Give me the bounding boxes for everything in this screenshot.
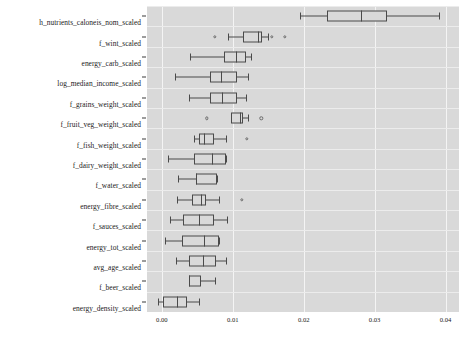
cap-high bbox=[219, 237, 220, 244]
cap-high bbox=[248, 115, 249, 122]
x-tick-label: 0.01 bbox=[227, 316, 239, 323]
box bbox=[196, 174, 217, 185]
y-tick-label: f_dairy_weight_scaled bbox=[0, 161, 141, 170]
median-line bbox=[236, 52, 237, 63]
whisker-high bbox=[201, 281, 215, 282]
box bbox=[192, 194, 205, 205]
box bbox=[243, 31, 262, 42]
y-gridline bbox=[147, 210, 459, 211]
x-axis-labels: 0.000.010.020.030.04 bbox=[147, 314, 459, 330]
cap-low bbox=[165, 237, 166, 244]
whisker-high bbox=[216, 261, 226, 262]
whisker-high bbox=[187, 301, 199, 302]
cap-high bbox=[226, 258, 227, 265]
y-axis-labels: h_nutrients_caloneis_nom_scaledf_wint_sc… bbox=[0, 6, 141, 312]
median-line bbox=[258, 31, 259, 42]
y-tick-label: log_median_income_scaled bbox=[0, 79, 141, 88]
median-line bbox=[199, 215, 200, 226]
plot-area bbox=[147, 6, 459, 312]
y-tick-mark bbox=[142, 77, 146, 78]
median-line bbox=[222, 92, 223, 103]
cap-low bbox=[177, 196, 178, 203]
whisker-high bbox=[214, 220, 227, 221]
y-tick-mark bbox=[142, 281, 146, 282]
y-gridline bbox=[147, 26, 459, 27]
y-gridline bbox=[147, 88, 459, 89]
y-gridline bbox=[147, 169, 459, 170]
y-tick-mark bbox=[142, 36, 146, 37]
y-gridline bbox=[147, 108, 459, 109]
y-tick-label: f_water_scaled bbox=[0, 181, 141, 190]
outlier-point bbox=[283, 35, 286, 38]
y-tick-label: energy_density_scaled bbox=[0, 303, 141, 312]
y-tick-label: f_sauces_scaled bbox=[0, 222, 141, 231]
outlier-point bbox=[205, 116, 208, 119]
whisker-low bbox=[178, 179, 196, 180]
median-line bbox=[189, 276, 190, 287]
cap-high bbox=[226, 135, 227, 142]
median-line bbox=[177, 296, 178, 307]
y-tick-mark bbox=[142, 301, 146, 302]
y-tick-label: f_fruit_veg_weight_scaled bbox=[0, 120, 141, 129]
y-tick-mark bbox=[142, 261, 146, 262]
y-tick-label: avg_age_scaled bbox=[0, 263, 141, 272]
x-tick-label: 0.03 bbox=[369, 316, 381, 323]
whisker-low bbox=[170, 220, 183, 221]
cap-high bbox=[227, 217, 228, 224]
box bbox=[189, 276, 201, 287]
y-tick-mark bbox=[142, 159, 146, 160]
cap-high bbox=[217, 176, 218, 183]
y-tick-label: energy_tot_scaled bbox=[0, 242, 141, 251]
box bbox=[231, 113, 242, 124]
x-gridline bbox=[375, 6, 376, 312]
x-tick-label: 0.00 bbox=[156, 316, 168, 323]
y-gridline bbox=[147, 292, 459, 293]
box bbox=[199, 133, 214, 144]
cap-low bbox=[176, 258, 177, 265]
y-tick-label: energy_fibre_scaled bbox=[0, 201, 141, 210]
y-gridline bbox=[147, 271, 459, 272]
whisker-low bbox=[189, 97, 210, 98]
whisker-low bbox=[177, 199, 193, 200]
cap-low bbox=[194, 135, 195, 142]
box bbox=[327, 11, 387, 22]
outlier-point bbox=[240, 198, 243, 201]
y-gridline bbox=[147, 128, 459, 129]
median-line bbox=[361, 11, 362, 22]
cap-high bbox=[251, 54, 252, 61]
median-line bbox=[204, 133, 205, 144]
whisker-low bbox=[175, 77, 210, 78]
y-gridline bbox=[147, 67, 459, 68]
whisker-high bbox=[206, 199, 219, 200]
box bbox=[210, 92, 237, 103]
y-tick-label: f_wint_scaled bbox=[0, 38, 141, 47]
cap-low bbox=[190, 54, 191, 61]
y-tick-mark bbox=[142, 118, 146, 119]
whisker-low bbox=[176, 261, 189, 262]
outlier-point bbox=[259, 116, 262, 119]
y-tick-mark bbox=[142, 240, 146, 241]
median-line bbox=[203, 256, 204, 267]
x-tick-label: 0.04 bbox=[440, 316, 452, 323]
y-tick-label: f_grains_weight_scaled bbox=[0, 99, 141, 108]
y-tick-mark bbox=[142, 199, 146, 200]
cap-high bbox=[248, 74, 249, 81]
box bbox=[182, 235, 219, 246]
cap-low bbox=[178, 176, 179, 183]
y-tick-label: f_beer_scaled bbox=[0, 283, 141, 292]
outlier-point bbox=[270, 35, 273, 38]
y-gridline bbox=[147, 251, 459, 252]
y-tick-label: energy_carb_scaled bbox=[0, 59, 141, 68]
median-line bbox=[240, 113, 241, 124]
cap-low bbox=[300, 13, 301, 20]
median-line bbox=[204, 235, 205, 246]
x-gridline bbox=[162, 6, 163, 312]
cap-high bbox=[246, 94, 247, 101]
cap-high bbox=[215, 278, 216, 285]
y-tick-mark bbox=[142, 138, 146, 139]
y-tick-mark bbox=[142, 16, 146, 17]
cap-low bbox=[170, 217, 171, 224]
x-gridline bbox=[446, 6, 447, 312]
whisker-high bbox=[387, 16, 439, 17]
box bbox=[224, 52, 246, 63]
